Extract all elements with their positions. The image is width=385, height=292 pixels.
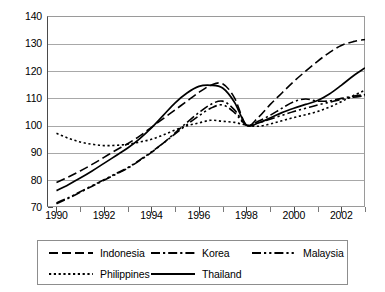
line-chart: 708090100110120130140 199019921994199619… <box>0 0 385 232</box>
legend-item-thailand[interactable]: Thailand <box>150 263 241 285</box>
x-axis-tick-label: 1996 <box>177 210 221 221</box>
legend-item-philippines[interactable]: Philippines <box>48 263 150 285</box>
legend-swatch-malaysia-icon <box>251 247 297 259</box>
chart-screenshot: 708090100110120130140 199019921994199619… <box>0 0 385 292</box>
legend-swatch-thailand-icon <box>150 268 196 280</box>
series-line-thailand <box>56 68 365 191</box>
legend-label: Indonesia <box>100 248 145 259</box>
legend-label: Korea <box>202 248 230 259</box>
legend-swatch-korea-icon <box>150 247 196 259</box>
x-axis-tick-label: 1994 <box>129 210 173 221</box>
legend-row: IndonesiaKoreaMalaysia <box>38 242 347 264</box>
legend-item-korea[interactable]: Korea <box>150 242 230 264</box>
legend-label: Malaysia <box>303 248 344 259</box>
series-line-philippines <box>56 90 365 145</box>
x-axis-tick-label: 2002 <box>319 210 363 221</box>
x-axis-tick <box>365 207 366 212</box>
series-lines <box>47 16 365 207</box>
x-axis-tick-label: 1998 <box>224 210 268 221</box>
x-axis-tick-label: 1990 <box>34 210 78 221</box>
chart-legend: IndonesiaKoreaMalaysiaPhilippinesThailan… <box>37 240 348 285</box>
legend-item-indonesia[interactable]: Indonesia <box>48 242 145 264</box>
x-axis-tick-label: 2000 <box>272 210 316 221</box>
legend-label: Thailand <box>202 269 241 280</box>
legend-item-malaysia[interactable]: Malaysia <box>251 242 344 264</box>
x-axis-tick-label: 1992 <box>82 210 126 221</box>
legend-label: Philippines <box>100 269 150 280</box>
legend-swatch-philippines-icon <box>48 268 94 280</box>
legend-row: PhilippinesThailand <box>38 263 347 285</box>
legend-swatch-indonesia-icon <box>48 247 94 259</box>
